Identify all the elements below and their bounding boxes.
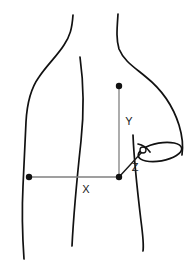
- measurement-label-y: Y: [125, 115, 133, 127]
- measurement-label-z: Z: [132, 161, 139, 173]
- body-outline-group: [22, 14, 183, 259]
- anatomical-diagram: Y X Z: [0, 0, 196, 280]
- mid-back-marker: [116, 174, 122, 180]
- right-shoulder-outline: [117, 14, 183, 155]
- measurement-line-z: [119, 152, 142, 177]
- left-shoulder-and-torso-outline: [22, 15, 73, 259]
- markers-group: [26, 83, 146, 180]
- axilla-marker: [140, 147, 146, 153]
- upper-back-marker: [116, 83, 122, 89]
- measurement-lines-group: [29, 86, 119, 177]
- diagram-canvas: Y X Z: [0, 0, 196, 280]
- spine-center-line: [72, 57, 83, 246]
- measurement-label-x: X: [82, 183, 90, 195]
- left-flank-marker: [26, 174, 32, 180]
